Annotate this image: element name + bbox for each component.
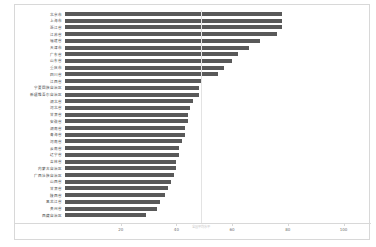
x-tick-mark (176, 224, 177, 226)
category-label: 江苏省 (50, 33, 62, 37)
category-label: 重庆市 (50, 66, 62, 70)
bar[interactable] (65, 126, 185, 130)
category-label: 江西省 (50, 80, 62, 84)
category-label: 山东省 (50, 59, 62, 63)
category-label: 湖南省 (50, 127, 62, 131)
x-tick-label: 20 (118, 227, 123, 232)
x-tick-mark (288, 224, 289, 226)
bar[interactable] (65, 207, 157, 211)
bar[interactable] (65, 66, 224, 70)
x-tick-mark (344, 224, 345, 226)
category-label: 四川省 (50, 73, 62, 77)
bar[interactable] (65, 93, 199, 97)
category-label: 广东省 (50, 53, 62, 57)
bar[interactable] (65, 200, 160, 204)
category-label: 甘肃省 (50, 113, 62, 117)
category-label: 云南省 (50, 147, 62, 151)
bar[interactable] (65, 146, 179, 150)
bar[interactable] (65, 213, 146, 217)
bar-row: 西藏自治区 (15, 212, 371, 219)
category-label: 辽宁省 (50, 153, 62, 157)
category-label: 安徽省 (50, 120, 62, 124)
bar[interactable] (65, 12, 282, 16)
bar[interactable] (65, 180, 171, 184)
bar[interactable] (65, 119, 188, 123)
category-label: 吉林省 (50, 160, 62, 164)
category-label-cell: 西藏自治区 (15, 212, 62, 219)
bar[interactable] (65, 32, 277, 36)
bar-track (65, 212, 371, 219)
bar[interactable] (65, 86, 199, 90)
category-label: 浙江省 (50, 26, 62, 30)
category-label: 北京市 (50, 13, 62, 17)
x-axis-line (15, 223, 371, 224)
category-label: 湖北省 (50, 100, 62, 104)
category-label: 青海省 (50, 133, 62, 137)
category-label: 西藏自治区 (42, 214, 62, 218)
x-tick-label: 60 (230, 227, 235, 232)
category-label: 河北省 (50, 106, 62, 110)
category-label: 福建省 (50, 39, 62, 43)
category-label: 广西壮族自治区 (34, 174, 62, 178)
category-label: 贵州省 (50, 207, 62, 211)
x-tick-label: 40 (174, 227, 179, 232)
reference-line (201, 10, 202, 223)
x-tick-label: 80 (285, 227, 290, 232)
bar[interactable] (65, 99, 193, 103)
category-label: 上海市 (50, 19, 62, 23)
bar[interactable] (65, 186, 168, 190)
category-label: 黑龙江省 (46, 200, 62, 204)
bar[interactable] (65, 153, 179, 157)
category-label: 甘肃省 (50, 187, 62, 191)
bar[interactable] (65, 19, 282, 23)
bar[interactable] (65, 139, 182, 143)
bar[interactable] (65, 193, 165, 197)
bar-chart-plot: 北京市上海市浙江省江苏省福建省天津市广东省山东省重庆市四川省江西省宁夏回族自治区… (15, 5, 371, 241)
bar[interactable] (65, 113, 188, 117)
bar[interactable] (65, 46, 249, 50)
bar[interactable] (65, 25, 282, 29)
bar[interactable] (65, 39, 260, 43)
bar[interactable] (65, 59, 232, 63)
category-label: 山西省 (50, 180, 62, 184)
category-label: 河南省 (50, 140, 62, 144)
category-label: 天津市 (50, 46, 62, 50)
x-tick-mark (121, 224, 122, 226)
bar[interactable] (65, 72, 218, 76)
reference-line-label: 全国平均水平 (192, 224, 210, 229)
bar[interactable] (65, 133, 185, 137)
bar[interactable] (65, 173, 174, 177)
bar[interactable] (65, 52, 238, 56)
category-label: 陕西省 (50, 194, 62, 198)
category-label: 内蒙古自治区 (38, 167, 62, 171)
category-label: 新疆维吾尔自治区 (30, 93, 62, 97)
bar[interactable] (65, 160, 176, 164)
chart-frame: 北京市上海市浙江省江苏省福建省天津市广东省山东省重庆市四川省江西省宁夏回族自治区… (14, 4, 370, 240)
category-label: 宁夏回族自治区 (34, 86, 62, 90)
x-tick-mark (232, 224, 233, 226)
x-tick-label: 100 (340, 227, 348, 232)
bar[interactable] (65, 79, 201, 83)
bar[interactable] (65, 166, 176, 170)
bar[interactable] (65, 106, 190, 110)
